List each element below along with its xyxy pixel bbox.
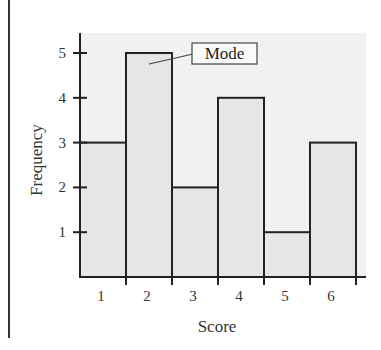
x-tick-label: 5	[281, 288, 289, 304]
y-axis-title: Frequency	[27, 124, 46, 196]
x-axis-title: Score	[198, 317, 237, 336]
bar-score-6	[310, 143, 356, 277]
bar-score-5	[264, 232, 310, 277]
mode-label: Mode	[205, 44, 245, 63]
bar-score-1	[80, 143, 126, 277]
x-tick-label: 2	[143, 288, 151, 304]
y-tick-label: 4	[59, 90, 67, 106]
bar-score-3	[172, 187, 218, 277]
x-axis: 123456	[80, 277, 366, 304]
x-tick-label: 1	[97, 288, 105, 304]
bar-score-2	[126, 53, 172, 277]
y-tick-label: 1	[59, 224, 67, 240]
histogram-chart: 12345 123456 Mode Score Frequency	[0, 0, 381, 350]
y-tick-label: 3	[59, 135, 67, 151]
x-tick-label: 4	[235, 288, 243, 304]
bar-score-4	[218, 98, 264, 277]
x-tick-label: 3	[189, 288, 197, 304]
x-tick-label: 6	[327, 288, 335, 304]
y-tick-label: 2	[59, 179, 67, 195]
y-tick-label: 5	[59, 45, 67, 61]
